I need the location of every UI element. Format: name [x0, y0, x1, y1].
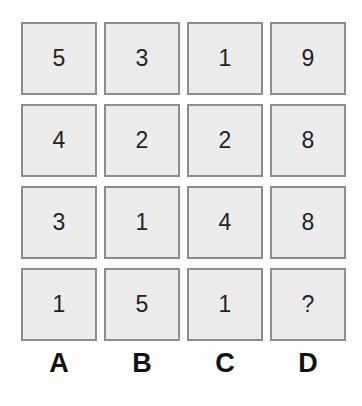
grid-cell-value: 4 [53, 129, 66, 152]
grid-cell-a3[interactable]: 3 [21, 186, 97, 259]
grid-cell-value: 1 [219, 293, 232, 316]
column-label-d: D [270, 348, 346, 388]
grid-cell-c2[interactable]: 2 [187, 104, 263, 177]
grid-cell-value: 5 [136, 293, 149, 316]
grid-cell-a2[interactable]: 4 [21, 104, 97, 177]
grid-cell-value: 3 [53, 211, 66, 234]
grid-cell-b2[interactable]: 2 [104, 104, 180, 177]
grid-cell-value: 1 [53, 293, 66, 316]
grid-cell-value: 8 [302, 129, 315, 152]
number-grid-puzzle: 5 3 1 9 4 2 2 8 3 1 4 [0, 0, 362, 406]
grid-cell-d4-unknown[interactable]: ? [270, 268, 346, 341]
grid-cell-value: 2 [136, 129, 149, 152]
grid-cell-b3[interactable]: 1 [104, 186, 180, 259]
grid-cell-b1[interactable]: 3 [104, 22, 180, 95]
column-label-b: B [104, 348, 180, 388]
grid-cell-c1[interactable]: 1 [187, 22, 263, 95]
grid-cell-d3[interactable]: 8 [270, 186, 346, 259]
grid-cell-value: 1 [136, 211, 149, 234]
grid-cell-value: 3 [136, 47, 149, 70]
unknown-value-marker: ? [302, 293, 315, 316]
grid-cell-value: 5 [53, 47, 66, 70]
grid-cell-value: 1 [219, 47, 232, 70]
grid-cell-value: 4 [219, 211, 232, 234]
grid-cell-b4[interactable]: 5 [104, 268, 180, 341]
grid-cell-value: 9 [302, 47, 315, 70]
column-label-c: C [187, 348, 263, 388]
grid-cell-c4[interactable]: 1 [187, 268, 263, 341]
column-label-a: A [21, 348, 97, 388]
grid-cell-d1[interactable]: 9 [270, 22, 346, 95]
grid-cell-value: 8 [302, 211, 315, 234]
column-labels-row: A B C D [21, 348, 345, 388]
puzzle-grid: 5 3 1 9 4 2 2 8 3 1 4 [21, 22, 345, 343]
grid-cell-a1[interactable]: 5 [21, 22, 97, 95]
grid-cell-d2[interactable]: 8 [270, 104, 346, 177]
grid-cell-value: 2 [219, 129, 232, 152]
grid-cell-a4[interactable]: 1 [21, 268, 97, 341]
grid-cell-c3[interactable]: 4 [187, 186, 263, 259]
